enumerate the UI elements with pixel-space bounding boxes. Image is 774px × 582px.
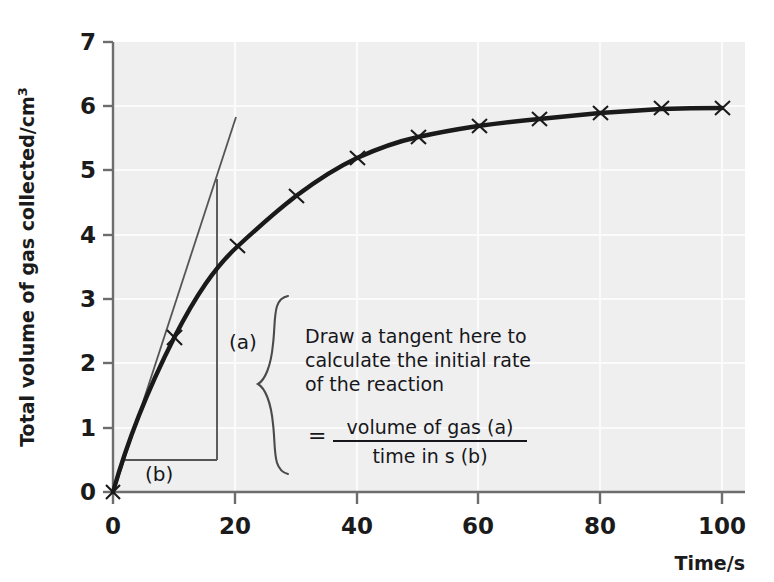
y-tick-label-4: 4 [80,222,96,248]
y-tick-label-6: 6 [80,93,96,119]
equals-sign: = [308,423,326,448]
rise-label: (a) [229,330,257,354]
run-label: (b) [145,462,173,486]
instruction-line-3: of the reaction [305,373,444,395]
x-tick-label-20: 20 [219,513,251,539]
x-tick-label-40: 40 [341,513,373,539]
y-axis-title-text: Total volume of gas collected/cm [16,96,38,447]
instruction-line-1: Draw a tangent here to [305,325,527,347]
x-tick-label-60: 60 [462,513,494,539]
chart-figure: 0 1 2 3 4 5 6 7 0 20 40 60 80 100 Time/s… [0,0,774,582]
y-tick-label-7: 7 [80,29,96,55]
y-axis-title-superscript: 3 [15,87,30,96]
x-axis-title: Time/s [675,552,745,574]
x-tick-label-80: 80 [584,513,616,539]
y-tick-label-0: 0 [80,479,96,505]
svg-text:Total volume of gas collected/: Total volume of gas collected/cm3 [15,87,38,447]
fraction-numerator: volume of gas (a) [347,416,514,438]
x-tick-label-100: 100 [698,513,746,539]
gas-volume-vs-time-chart: 0 1 2 3 4 5 6 7 0 20 40 60 80 100 Time/s… [0,0,774,582]
y-tick-label-3: 3 [80,286,96,312]
y-tick-label-1: 1 [80,415,96,441]
fraction-denominator: time in s (b) [372,445,487,467]
y-tick-label-2: 2 [80,350,96,376]
y-axis-title: Total volume of gas collected/cm3 [15,87,38,447]
x-tick-label-0: 0 [105,513,121,539]
instruction-line-2: calculate the initial rate [305,349,531,371]
y-tick-label-5: 5 [80,157,96,183]
